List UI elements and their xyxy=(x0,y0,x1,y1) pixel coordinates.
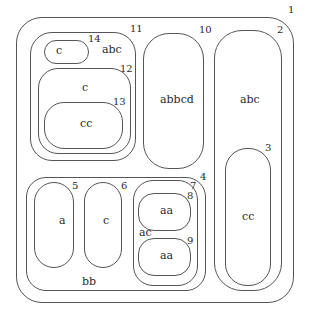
region-6-label: c xyxy=(103,215,109,226)
region-12-label: c xyxy=(82,82,88,93)
region-4-number: 4 xyxy=(200,172,206,182)
region-5-number: 5 xyxy=(72,181,78,191)
region-12-number: 12 xyxy=(120,64,133,74)
region-10-label: abbcd xyxy=(160,94,194,105)
region-14 xyxy=(44,40,89,64)
region-4-label: bb xyxy=(82,276,96,287)
region-9-label: aa xyxy=(160,250,173,261)
region-5 xyxy=(34,182,74,268)
region-2-number: 2 xyxy=(277,25,283,35)
region-3-label: cc xyxy=(242,211,254,222)
region-5-label: a xyxy=(59,215,66,226)
region-8-number: 8 xyxy=(187,191,193,201)
region-8-label: aa xyxy=(160,205,173,216)
region-13-label: cc xyxy=(80,118,92,129)
region-2-label: abc xyxy=(240,94,260,105)
region-11-number: 11 xyxy=(130,24,143,34)
region-6-number: 6 xyxy=(121,181,127,191)
region-11-label: abc xyxy=(102,44,122,55)
region-9-number: 9 xyxy=(187,236,193,246)
region-14-label: c xyxy=(56,45,62,56)
region-1-number: 1 xyxy=(288,5,294,15)
region-3-number: 3 xyxy=(265,143,271,153)
region-14-number: 14 xyxy=(88,34,101,44)
region-13-number: 13 xyxy=(113,97,126,107)
region-10-number: 10 xyxy=(199,25,212,35)
